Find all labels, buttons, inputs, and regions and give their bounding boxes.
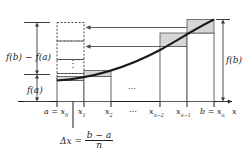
vertical-ellipsis-stack: ⋮ [68, 58, 78, 69]
xtick-label-x0: a = x0 [44, 108, 68, 118]
label-f-b: f(b) [226, 56, 242, 65]
riemann-sum-figure: f(b) − f(a) f(a) f(b) ⋮ ⋯ a = x0 x1 x2 ⋯… [0, 0, 245, 162]
axis-label-x: x [232, 108, 237, 116]
label-f-a: f(a) [27, 86, 43, 95]
xtick-label-gap: ⋯ [129, 108, 137, 116]
delta-x-numerator: b − a [85, 131, 113, 140]
xtick-xn-text: b = x [200, 107, 221, 116]
xtick-label-xn-2: xn−2 [149, 108, 164, 118]
figure-canvas [0, 0, 245, 162]
delta-x-formula: Δx = b − a n [60, 131, 113, 150]
xtick-x0-sub: 0 [65, 112, 68, 118]
xtick-xn2-sub: n−2 [154, 112, 165, 118]
delta-x-lhs: Δx = [60, 136, 82, 146]
label-f-b-minus-f-a: f(b) − f(a) [6, 53, 51, 62]
xtick-x2-sub: 2 [110, 112, 113, 118]
xtick-label-x2: x2 [105, 108, 113, 118]
horizontal-ellipsis-plot: ⋯ [128, 84, 136, 93]
xtick-x1-sub: 1 [83, 112, 86, 118]
xtick-label-xn: b = xn [200, 108, 225, 118]
xtick-x0-text: a = x [44, 107, 65, 116]
dashed-stack-column [57, 23, 84, 81]
delta-x-fraction: b − a n [85, 131, 113, 150]
xtick-label-x1: x1 [78, 108, 86, 118]
xtick-xn1-sub: n−1 [181, 112, 192, 118]
xtick-xn-sub: n [221, 112, 224, 118]
delta-x-denominator: n [85, 140, 113, 150]
xtick-label-xn-1: xn−1 [176, 108, 191, 118]
